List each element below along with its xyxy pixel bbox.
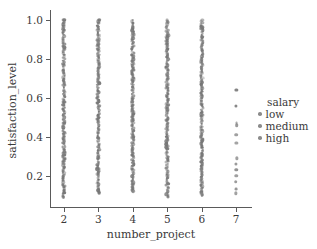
legend-item-label: high <box>266 133 290 144</box>
legend-item-label: low <box>266 109 285 120</box>
y-tick-label: 0.4 <box>26 132 43 143</box>
data-point <box>62 196 65 199</box>
data-point <box>234 163 237 166</box>
x-tick-mark <box>202 208 203 212</box>
data-point <box>235 141 238 144</box>
data-point <box>235 188 238 191</box>
legend-marker-icon <box>258 124 262 128</box>
data-point <box>234 104 237 107</box>
legend-item-low[interactable]: low <box>258 108 317 120</box>
legend-marker-icon <box>258 112 262 116</box>
data-point <box>234 192 237 195</box>
legend-title: salary <box>258 96 317 108</box>
legend-entries: lowmediumhigh <box>258 108 317 144</box>
y-tick-label: 0.8 <box>26 54 43 65</box>
x-tick-label: 5 <box>164 214 171 225</box>
data-point <box>235 174 238 177</box>
legend-item-medium[interactable]: medium <box>258 120 317 132</box>
data-point <box>235 133 239 137</box>
x-axis-spine <box>50 207 252 208</box>
x-tick-label: 4 <box>129 214 136 225</box>
x-tick-mark <box>236 208 237 212</box>
scatter-plot-figure: 0.20.40.60.81.0 number_project satisfact… <box>0 0 317 249</box>
plot-area <box>50 12 250 207</box>
legend-marker-icon <box>258 136 262 140</box>
data-point <box>235 168 238 171</box>
x-tick-mark <box>133 208 134 212</box>
data-point <box>235 123 239 127</box>
legend-item-label: medium <box>266 121 309 132</box>
x-tick-label: 6 <box>198 214 205 225</box>
y-axis-label: satisfaction_level <box>7 46 18 176</box>
x-tick-mark <box>167 208 168 212</box>
legend-item-high[interactable]: high <box>258 132 317 144</box>
x-tick-mark <box>98 208 99 212</box>
x-tick-label: 3 <box>95 214 102 225</box>
x-tick-mark <box>64 208 65 212</box>
x-tick-label: 2 <box>60 214 67 225</box>
data-point <box>234 180 238 184</box>
x-axis-label: number_project <box>0 229 302 240</box>
data-point <box>235 157 238 160</box>
x-tick-label: 7 <box>233 214 240 225</box>
y-tick-label: 0.6 <box>26 93 43 104</box>
data-point <box>97 192 100 195</box>
y-tick-label: 0.2 <box>26 171 43 182</box>
data-point <box>235 88 238 91</box>
y-tick-label: 1.0 <box>26 15 43 26</box>
legend: salary lowmediumhigh <box>258 96 317 144</box>
